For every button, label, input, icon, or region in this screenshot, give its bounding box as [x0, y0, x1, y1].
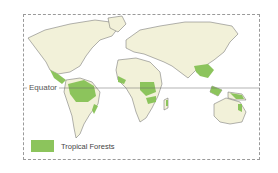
forest-se-asia	[194, 64, 214, 78]
legend: Tropical Forests	[31, 140, 115, 152]
legend-label: Tropical Forests	[61, 142, 115, 151]
forest-madagascar	[166, 100, 168, 106]
north-america	[28, 20, 118, 74]
equator-label: Equator	[27, 83, 59, 92]
tropical-forests-swatch	[31, 140, 54, 152]
